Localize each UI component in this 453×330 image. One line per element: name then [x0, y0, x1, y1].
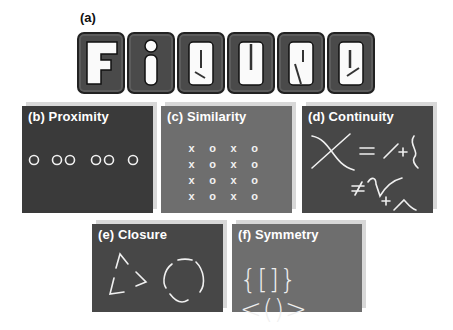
panel-closure: (e) Closure [92, 224, 223, 312]
grid-cell: x [181, 142, 202, 155]
grid-cell: o [244, 158, 265, 171]
letter-tile-f [77, 32, 125, 94]
letter-tile-r [277, 32, 325, 94]
grid-cell: x [181, 190, 202, 203]
grid-cell: o [244, 142, 265, 155]
letter-tile-u [227, 32, 275, 94]
letter-tile-e [327, 32, 375, 94]
letter-g-glyph [179, 34, 223, 92]
grid-cell: x [181, 158, 202, 171]
grid-cell: o [202, 174, 223, 187]
grid-cell: x [223, 174, 244, 187]
panel-label-a: (a) [80, 10, 96, 25]
panel-continuity: (d) Continuity [302, 106, 433, 213]
letter-tile-g [177, 32, 225, 94]
letter-e-glyph [329, 34, 373, 92]
symmetry-brackets: {[]}<()> [240, 264, 362, 324]
grid-cell: o [244, 190, 265, 203]
panel-symmetry: (f) Symmetry {[]}<()> [232, 224, 362, 312]
grid-cell: o [244, 174, 265, 187]
grid-cell: x [223, 190, 244, 203]
letter-f-glyph [79, 34, 123, 92]
panel-proximity: (b) Proximity [22, 106, 153, 213]
letter-i-glyph [129, 34, 173, 92]
panel-title-symmetry: (f) Symmetry [238, 227, 319, 242]
grid-cell: x [223, 142, 244, 155]
figure-title-tiles [77, 32, 377, 96]
proximity-circles [22, 106, 153, 213]
panel-similarity: (c) Similarity x o x o x o x o x o x o x… [161, 106, 292, 213]
closure-shapes [92, 224, 223, 312]
continuity-drawing [302, 106, 433, 213]
letter-tile-i [127, 32, 175, 94]
grid-cell: o [202, 158, 223, 171]
grid-cell: o [202, 190, 223, 203]
grid-cell: x [223, 158, 244, 171]
letter-r-glyph [279, 34, 323, 92]
similarity-grid: x o x o x o x o x o x o x o x o [181, 142, 265, 203]
panel-title-similarity: (c) Similarity [167, 109, 246, 124]
letter-u-glyph [229, 34, 273, 92]
grid-cell: x [181, 174, 202, 187]
grid-cell: o [202, 142, 223, 155]
